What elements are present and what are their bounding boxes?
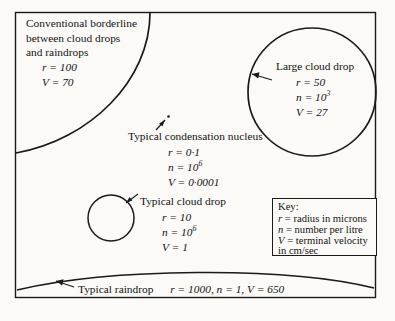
typical-cloud-drop-label: Typical cloud drop (140, 195, 226, 208)
typical-raindrop-name: Typical raindrop (78, 283, 153, 295)
typical-cloud-drop-leader-arrow (126, 194, 138, 203)
typical-cloud-drop-radius: r = 10 (162, 210, 196, 225)
condensation-nucleus-leader-arrow (156, 120, 165, 130)
typical-cloud-drop-number-exponent: 6 (192, 224, 196, 233)
large-cloud-drop-leader-arrow (252, 72, 272, 80)
large-cloud-drop-number-exponent: 3 (326, 89, 330, 98)
key-box: Key: rr = radius in microns = radius in … (272, 198, 377, 256)
condensation-nucleus-velocity: V = 0·0001 (168, 175, 219, 190)
borderline-values: r = 100 V = 70 (42, 60, 77, 90)
large-cloud-drop-values: r = 50 n = 103 V = 27 (296, 75, 330, 120)
key-entry-radius: rr = radius in microns = radius in micro… (278, 213, 367, 224)
borderline-radius: r = 100 (42, 60, 77, 75)
borderline-caption-line-3: and raindrops (26, 45, 137, 60)
condensation-nucleus-radius: r = 0·1 (168, 145, 219, 160)
condensation-nucleus-values: r = 0·1 n = 106 V = 0·0001 (168, 145, 219, 190)
condensation-nucleus-dot (167, 115, 170, 118)
condensation-nucleus-number-exponent: 6 (198, 159, 202, 168)
condensation-nucleus-label: Typical condensation nucleus (128, 130, 263, 143)
typical-raindrop-label: Typical raindrop r = 1000, n = 1, V = 65… (78, 283, 284, 296)
typical-cloud-drop-velocity: V = 1 (162, 240, 196, 255)
large-cloud-drop-number: n = 103 (296, 90, 330, 105)
condensation-nucleus-number: n = 106 (168, 160, 219, 175)
large-cloud-drop-label: Large cloud drop (276, 60, 354, 73)
key-entry-radius-text: = radius in microns (282, 213, 367, 224)
large-cloud-drop-radius: r = 50 (296, 75, 330, 90)
key-entry-number: n = number per litre (278, 224, 363, 235)
large-cloud-drop-velocity: V = 27 (296, 105, 330, 120)
figure-container: Conventional borderline between cloud dr… (0, 0, 395, 321)
typical-cloud-drop-values: r = 10 n = 106 V = 1 (162, 210, 196, 255)
key-title: Key: (278, 201, 299, 212)
borderline-caption-line-2: between cloud drops (26, 31, 137, 46)
borderline-velocity: V = 70 (42, 75, 77, 90)
typical-raindrop-values: r = 1000, n = 1, V = 650 (170, 283, 284, 295)
borderline-caption: Conventional borderline between cloud dr… (26, 16, 137, 60)
key-entry-number-text: = number per litre (283, 224, 363, 235)
borderline-caption-line-1: Conventional borderline (26, 16, 137, 31)
key-entry-velocity-cont: in cm/sec (278, 245, 318, 256)
typical-cloud-drop-number: n = 106 (162, 225, 196, 240)
